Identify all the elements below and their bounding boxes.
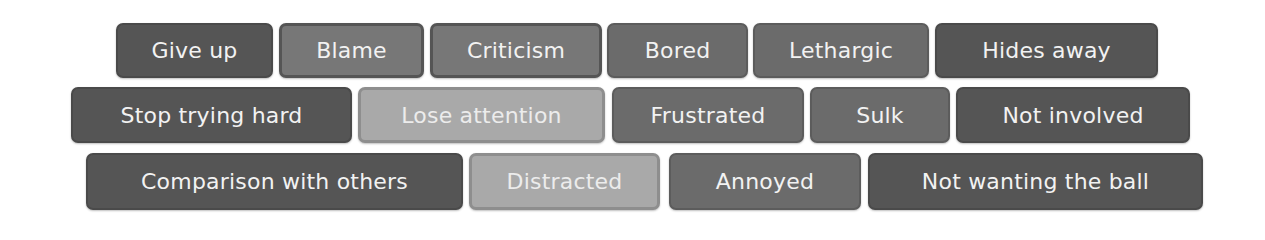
tag-not-wanting-the-ball: Not wanting the ball bbox=[868, 153, 1203, 210]
tag-annoyed: Annoyed bbox=[669, 153, 861, 210]
tag-lose-attention: Lose attention bbox=[358, 87, 605, 143]
tag-blame: Blame bbox=[279, 23, 424, 78]
tag-label: Bored bbox=[645, 38, 711, 63]
tag-label: Frustrated bbox=[651, 103, 766, 128]
tag-stop-trying-hard: Stop trying hard bbox=[71, 87, 352, 143]
tag-criticism: Criticism bbox=[430, 23, 602, 78]
tag-not-involved: Not involved bbox=[956, 87, 1190, 143]
tag-give-up: Give up bbox=[116, 23, 273, 78]
tag-label: Stop trying hard bbox=[121, 103, 303, 128]
tag-label: Give up bbox=[151, 38, 237, 63]
tag-label: Not involved bbox=[1002, 103, 1143, 128]
tag-sulk: Sulk bbox=[810, 87, 950, 143]
tag-hides-away: Hides away bbox=[935, 23, 1158, 78]
tag-label: Distracted bbox=[507, 169, 623, 194]
tag-bored: Bored bbox=[607, 23, 748, 78]
tag-distracted: Distracted bbox=[469, 153, 660, 210]
tag-frustrated: Frustrated bbox=[612, 87, 804, 143]
tag-label: Criticism bbox=[467, 38, 565, 63]
tag-label: Blame bbox=[316, 38, 387, 63]
tag-label: Hides away bbox=[982, 38, 1111, 63]
tag-label: Lose attention bbox=[401, 103, 561, 128]
tag-label: Comparison with others bbox=[141, 169, 408, 194]
tag-label: Not wanting the ball bbox=[922, 169, 1149, 194]
tag-label: Sulk bbox=[856, 103, 904, 128]
tag-comparison-with-others: Comparison with others bbox=[86, 153, 463, 210]
tag-lethargic: Lethargic bbox=[753, 23, 929, 78]
tag-label: Lethargic bbox=[789, 38, 893, 63]
tag-label: Annoyed bbox=[716, 169, 814, 194]
